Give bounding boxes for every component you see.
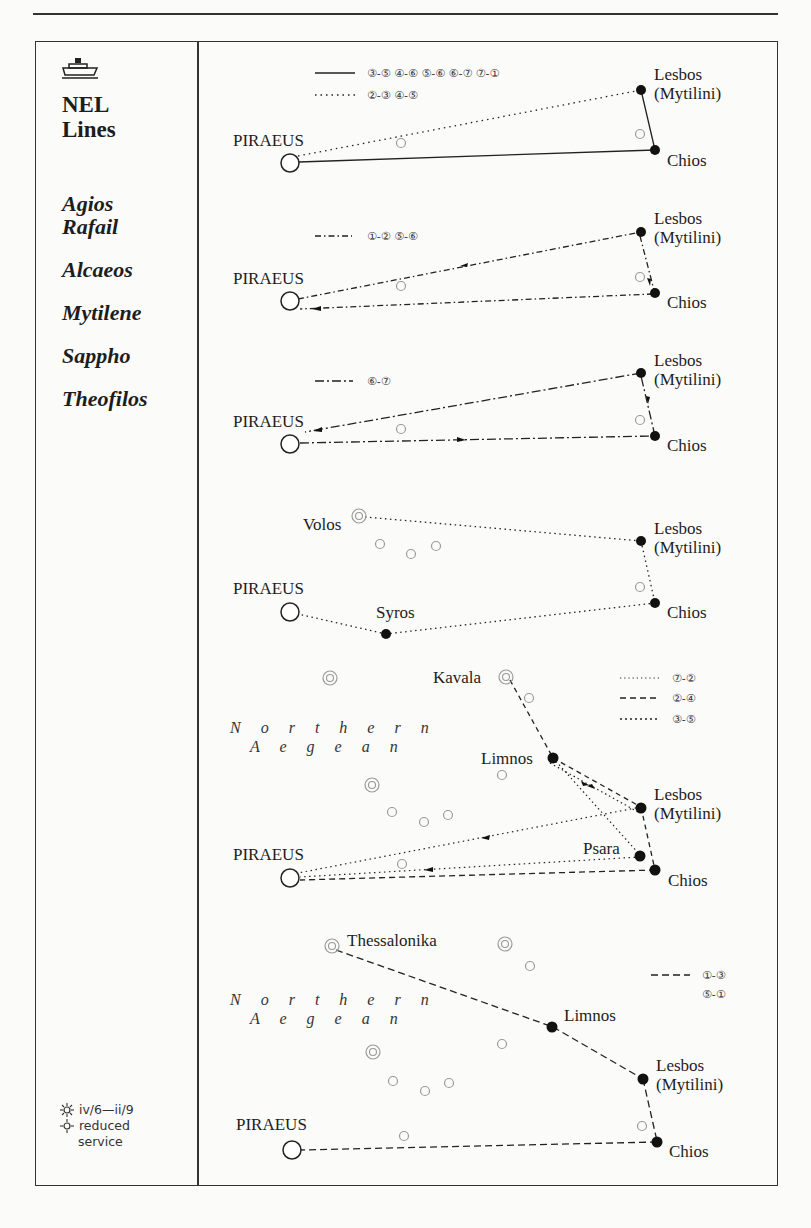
label-thessalonika: Thessalonika	[347, 931, 437, 950]
port-piraeus	[281, 435, 299, 453]
minor-port	[636, 416, 645, 425]
line-legend: ①-③ ⑤-①	[651, 969, 726, 1001]
minor-port	[365, 778, 379, 792]
port-syros	[381, 629, 391, 639]
minor-port	[432, 542, 441, 551]
route-line	[510, 680, 553, 758]
port-lesbos	[638, 1074, 649, 1085]
label-piraeus: PIRAEUS	[233, 845, 304, 864]
minor-port	[444, 811, 453, 820]
port-psara	[635, 851, 646, 862]
label-chios: Chios	[667, 151, 707, 170]
direction-arrow	[313, 427, 322, 432]
label-mytilini: (Mytilini)	[654, 804, 721, 823]
panel-6: ①-③ ⑤-① N o r t h e r n A e g e a n Thes…	[229, 931, 726, 1161]
label-lesbos: Lesbos	[654, 65, 702, 84]
minor-port	[636, 583, 645, 592]
route-line	[641, 541, 655, 603]
port-lesbos	[636, 536, 646, 546]
minor-port	[388, 808, 397, 817]
route-line	[300, 436, 653, 443]
line-legend: ③-⑤ ④-⑥ ⑤-⑥ ⑥-⑦ ⑦-① ②-③ ④-⑤	[315, 67, 500, 102]
label-volos: Volos	[303, 515, 341, 534]
minor-port	[636, 273, 645, 282]
route-line	[300, 1142, 657, 1150]
label-psara: Psara	[583, 839, 620, 858]
port-piraeus	[281, 869, 299, 887]
legend-days: ②-④	[672, 692, 696, 705]
label-syros: Syros	[376, 603, 415, 622]
minor-port	[421, 1087, 430, 1096]
route-line	[643, 1079, 657, 1141]
minor-port	[525, 694, 534, 703]
port-chios	[652, 1137, 663, 1148]
port-piraeus	[283, 1141, 301, 1159]
port-chios	[650, 865, 661, 876]
label-lesbos: Lesbos	[654, 785, 702, 804]
direction-arrow	[460, 263, 468, 267]
minor-port	[498, 771, 507, 780]
label-piraeus: PIRAEUS	[233, 269, 304, 288]
route-line	[640, 236, 655, 294]
minor-port	[400, 1132, 409, 1141]
port-lesbos	[636, 803, 647, 814]
port-piraeus	[281, 603, 299, 621]
label-lesbos: Lesbos	[654, 519, 702, 538]
minor-port	[636, 130, 645, 139]
sea-label: A e g e a n	[249, 738, 406, 756]
legend-days: ⑦-②	[672, 672, 696, 685]
port-lesbos	[636, 368, 646, 378]
minor-port	[323, 671, 337, 685]
port-limnos	[548, 753, 559, 764]
label-chios: Chios	[667, 293, 707, 312]
label-mytilini: (Mytilini)	[654, 228, 721, 247]
port-chios	[650, 431, 660, 441]
minor-port	[445, 1079, 454, 1088]
minor-port	[398, 860, 407, 869]
label-piraeus: PIRAEUS	[233, 579, 304, 598]
minor-port	[397, 139, 406, 148]
route-line	[298, 232, 641, 299]
legend-days: ②-③ ④-⑤	[367, 89, 418, 102]
legend-days: ①-③	[702, 969, 726, 982]
label-piraeus: PIRAEUS	[236, 1115, 307, 1134]
port-lesbos	[636, 85, 646, 95]
panel-3: ⑥-⑦ PIRAEUS Lesbos (Mytilini) Chios	[233, 351, 721, 455]
direction-arrow	[481, 835, 490, 840]
panel-5: ⑦-② ②-④ ③-⑤ N o r t h e r n A e g e a n	[229, 668, 721, 890]
route-line	[641, 90, 655, 150]
route-line	[300, 294, 653, 309]
label-lesbos: Lesbos	[656, 1056, 704, 1075]
route-line	[641, 376, 655, 436]
legend-days: ③-⑤ ④-⑥ ⑤-⑥ ⑥-⑦ ⑦-①	[367, 67, 500, 80]
legend-days: ③-⑤	[672, 713, 696, 726]
label-piraeus: PIRAEUS	[233, 412, 304, 431]
minor-port	[420, 818, 429, 827]
route-map: ③-⑤ ④-⑥ ⑤-⑥ ⑥-⑦ ⑦-① ②-③ ④-⑤ PIRAEUS Lesb…	[0, 0, 811, 1228]
port-chios	[650, 598, 660, 608]
route-line	[300, 870, 655, 880]
label-mytilini: (Mytilini)	[654, 538, 721, 557]
route-line	[365, 517, 641, 541]
label-piraeus: PIRAEUS	[233, 131, 304, 150]
port-piraeus	[281, 154, 299, 172]
panel-1: ③-⑤ ④-⑥ ⑤-⑥ ⑥-⑦ ⑦-① ②-③ ④-⑤ PIRAEUS Lesb…	[233, 65, 721, 172]
sea-label: N o r t h e r n	[229, 991, 437, 1008]
direction-arrow	[457, 437, 466, 442]
port-chios	[650, 288, 660, 298]
minor-port	[407, 550, 416, 559]
port-thessalonika	[325, 939, 339, 953]
port-kavala	[499, 670, 513, 684]
route-line	[298, 90, 641, 156]
label-chios: Chios	[669, 1142, 709, 1161]
route-line	[386, 603, 655, 634]
direction-arrow	[647, 278, 651, 286]
minor-port	[498, 937, 512, 951]
route-line	[299, 150, 655, 162]
label-kavala: Kavala	[433, 668, 482, 687]
port-limnos	[547, 1022, 558, 1033]
label-mytilini: (Mytilini)	[654, 370, 721, 389]
minor-port	[526, 962, 535, 971]
port-chios	[650, 145, 660, 155]
label-mytilini: (Mytilini)	[654, 84, 721, 103]
